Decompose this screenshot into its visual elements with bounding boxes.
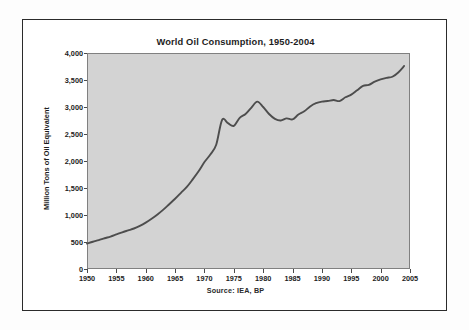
y-tick-mark (84, 215, 88, 216)
x-tick-mark (381, 269, 382, 273)
y-tick-label: 2,500 (23, 130, 83, 139)
y-tick-mark (84, 161, 88, 162)
y-tick-label: 500 (23, 238, 83, 247)
x-tick-mark (351, 269, 352, 273)
y-tick-label: 3,500 (23, 76, 83, 85)
y-tick-label: 1,500 (23, 184, 83, 193)
chart-title: World Oil Consumption, 1950-2004 (23, 37, 448, 47)
y-tick-label: 3,000 (23, 103, 83, 112)
x-tick-mark (116, 269, 117, 273)
y-tick-mark (84, 107, 88, 108)
y-tick-mark (84, 80, 88, 81)
chart-figure: World Oil Consumption, 1950-2004 Million… (23, 20, 448, 312)
x-tick-mark (263, 269, 264, 273)
x-tick-mark (410, 269, 411, 273)
y-tick-label: 4,000 (23, 49, 83, 58)
y-tick-mark (84, 53, 88, 54)
x-tick-mark (322, 269, 323, 273)
y-tick-mark (84, 134, 88, 135)
x-tick-mark (87, 269, 88, 273)
y-tick-mark (84, 188, 88, 189)
consumption-line (87, 66, 404, 244)
x-tick-label: 2005 (388, 274, 432, 283)
y-tick-mark (84, 242, 88, 243)
screenshot-page: World Oil Consumption, 1950-2004 Million… (0, 0, 469, 330)
y-tick-label: 0 (23, 265, 83, 274)
x-tick-mark (175, 269, 176, 273)
y-tick-label: 2,000 (23, 157, 83, 166)
document-frame: World Oil Consumption, 1950-2004 Million… (22, 19, 447, 311)
x-tick-mark (146, 269, 147, 273)
plot-wrapper: 05001,0001,5002,0002,5003,0003,5004,0001… (87, 53, 410, 269)
source-note: Source: IEA, BP (23, 286, 448, 295)
y-tick-label: 1,000 (23, 211, 83, 220)
x-tick-mark (234, 269, 235, 273)
x-tick-mark (293, 269, 294, 273)
x-tick-mark (204, 269, 205, 273)
line-series (87, 53, 410, 269)
